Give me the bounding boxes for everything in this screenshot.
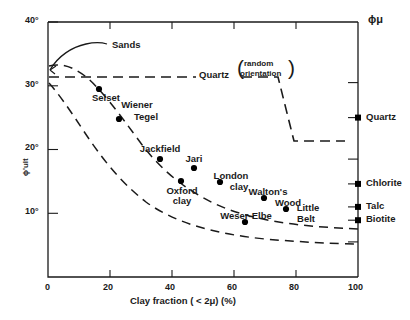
x-tick-label-0: 0	[45, 283, 50, 292]
point-label-oxford-clay: clay	[163, 196, 201, 206]
point-label-jari: Jari	[181, 154, 207, 164]
curve-label-quartz: Quartz	[199, 70, 229, 80]
point-label-jackfield: Jackfield	[131, 144, 189, 154]
sands-arrow-icon	[50, 66, 56, 74]
y-axis-caption: ϕ'ult	[22, 158, 30, 176]
data-point-jackfield	[157, 156, 163, 162]
point-label-wiener: Wiener	[109, 100, 165, 110]
point-label-belt: Belt	[292, 214, 320, 224]
point-label-little: Little	[292, 203, 324, 213]
y-tick-label-40: 40°	[25, 16, 39, 25]
curve-label-orientation: orientation	[240, 70, 281, 79]
data-point-wiener-tegel	[116, 116, 122, 122]
y-tick-label-30: 30°	[25, 80, 39, 89]
chart-figure: 40° 30° 20° 10° ϕ'ult 0 20 40 60 80 100 …	[0, 0, 410, 320]
point-label-weser-elbe: Weser-Elbe	[213, 211, 279, 221]
data-point-jari	[191, 165, 197, 171]
point-label-waltons: Walton's	[240, 187, 296, 197]
mineral-label-biotite: Biotite	[366, 214, 396, 224]
point-label-london: London	[206, 171, 256, 181]
x-tick-label-20: 20	[103, 283, 113, 292]
axis-frame	[48, 22, 358, 277]
mineral-label-talc: Talc	[366, 201, 384, 211]
mineral-label-chlorite: Chlorite	[366, 178, 402, 188]
x-tick-label-60: 60	[227, 283, 237, 292]
top-axis-ticks	[110, 22, 296, 29]
x-axis-caption: Clay fraction ( < 2μ) (%)	[130, 296, 236, 306]
data-point-oxford-clay	[178, 178, 184, 184]
y-axis-ticks	[48, 22, 58, 213]
x-axis-ticks	[110, 270, 296, 277]
y-tick-label-10: 10°	[25, 207, 39, 216]
curve-label-sands: Sands	[112, 40, 141, 50]
curve-sands	[50, 43, 107, 70]
mineral-label-quartz: Quartz	[366, 112, 396, 122]
point-label-tegel: Tegel	[125, 112, 167, 122]
right-paren-glyph: )	[288, 57, 295, 79]
curve-quartz-random-right	[242, 77, 345, 141]
y-tick-label-20: 20°	[25, 143, 39, 152]
phi-mu-symbol: ϕμ	[368, 14, 383, 26]
x-tick-label-100: 100	[348, 283, 363, 292]
x-tick-label-40: 40	[165, 283, 175, 292]
curve-label-random: random	[244, 60, 273, 69]
x-tick-label-80: 80	[289, 283, 299, 292]
